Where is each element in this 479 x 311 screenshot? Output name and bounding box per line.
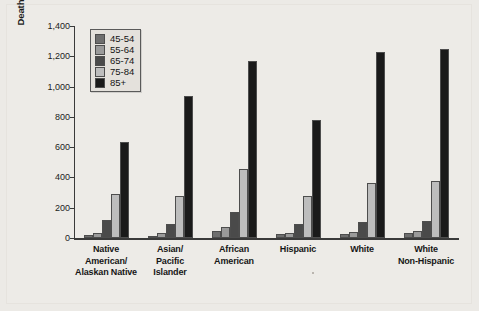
y-tick-mark [70,56,74,57]
legend-swatch-icon [95,56,105,66]
bar [413,231,422,238]
legend-swatch-icon [95,78,105,88]
scan-speck [312,272,314,274]
legend-swatch-icon [95,45,105,55]
y-tick-mark [70,147,74,148]
bar-group-bars [330,26,394,238]
bar [84,235,93,238]
y-tick-label: 0 [36,234,70,243]
bar [184,96,193,238]
bar [367,183,376,238]
bar [376,52,385,238]
bar [157,233,166,238]
x-category-label-line: Islander [132,267,208,279]
bar [340,234,349,238]
legend-row: 55-64 [95,44,134,55]
y-tick-label: 1,400 [36,22,70,31]
bar [221,227,230,238]
y-tick-mark [70,87,74,88]
bar [166,224,175,238]
legend-label: 75-84 [110,66,134,77]
bar [93,233,102,238]
bar [111,194,120,238]
legend-label: 45-54 [110,33,134,44]
legend-row: 85+ [95,77,134,88]
y-tick-mark [70,117,74,118]
bar-group [202,26,266,238]
bar-group-bars [138,26,202,238]
y-tick-label: 800 [36,112,70,121]
y-axis-tick-labels: 02004006008001,0001,2001,400 [30,0,70,311]
y-tick-mark [70,238,74,239]
legend-label: 65-74 [110,55,134,66]
legend-swatch-icon [95,34,105,44]
bar [230,212,239,238]
bar-group [330,26,394,238]
bar [175,196,184,238]
y-tick-label: 400 [36,173,70,182]
legend-label: 55-64 [110,44,134,55]
bar [431,181,440,238]
chart-figure: Deaths per 100,000 resident population 0… [0,0,479,311]
legend-row: 65-74 [95,55,134,66]
x-axis-line [74,238,459,240]
legend-swatch-icon [95,67,105,77]
bar [102,220,111,238]
bar [303,196,312,238]
bar [422,221,431,238]
y-axis-title: Deaths per 100,000 resident population [14,0,28,42]
bar-group-bars [202,26,266,238]
bar-group [394,26,458,238]
x-category-label-line: White [388,244,464,256]
chart-legend: 45-5455-6465-7475-8485+ [90,29,141,92]
y-tick-mark [70,177,74,178]
bar [440,49,449,238]
y-tick-label: 1,200 [36,52,70,61]
bar [285,233,294,238]
y-tick-label: 200 [36,203,70,212]
bar-group-bars [394,26,458,238]
y-tick-mark [70,208,74,209]
y-tick-mark [70,26,74,27]
x-category-label-line: Non-Hispanic [388,256,464,268]
bar-group [138,26,202,238]
bar [312,120,321,238]
legend-label: 85+ [110,77,126,88]
legend-row: 45-54 [95,33,134,44]
bar [358,222,367,238]
bar-group [266,26,330,238]
bar [248,61,257,238]
bar [120,142,129,238]
bar [349,232,358,239]
bar [212,231,221,238]
bar [294,224,303,238]
x-category-label-line: American [196,256,272,268]
bar [404,233,413,238]
bar [148,236,157,238]
bar-group-bars [266,26,330,238]
x-category-label: WhiteNon-Hispanic [388,244,464,267]
bar [276,234,285,238]
legend-row: 75-84 [95,66,134,77]
y-tick-label: 1,000 [36,82,70,91]
bar [239,169,248,238]
y-tick-label: 600 [36,143,70,152]
